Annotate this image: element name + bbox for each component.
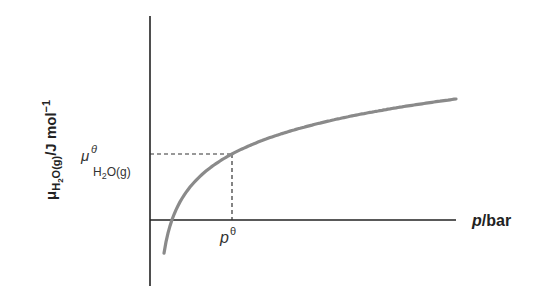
mu-theta-sub-rest: O(g) <box>107 165 131 179</box>
standard-pressure-label: p θ <box>219 225 236 246</box>
x-label-p: p <box>471 212 482 229</box>
y-label-unit: /J mol <box>42 112 59 155</box>
mu-theta-sup: θ <box>91 143 97 155</box>
chemical-potential-diagram: μH2O(g)/J mol−1 μ θ H2O(g) p θ p/bar <box>0 0 556 296</box>
x-axis-label: p/bar <box>471 212 511 229</box>
mu-theta-symbol: μ <box>80 147 89 164</box>
svg-text:μH2O(g)/J mol−1: μH2O(g)/J mol−1 <box>40 100 65 200</box>
y-label-sub-h: H <box>50 183 62 191</box>
y-label-sup: −1 <box>40 100 52 113</box>
chemical-potential-curve <box>164 99 456 253</box>
y-label-sub-rest: O(g) <box>50 155 62 178</box>
p-theta-sup: θ <box>230 225 236 237</box>
mu-theta-sub-h: H <box>93 165 102 179</box>
y-label-mu: μ <box>42 191 59 200</box>
y-axis-label: μH2O(g)/J mol−1 <box>40 100 65 200</box>
p-theta-symbol: p <box>219 229 229 246</box>
x-label-unit: /bar <box>482 212 511 229</box>
mu-theta-sub: H2O(g) <box>93 165 131 181</box>
standard-potential-label: μ θ H2O(g) <box>80 143 131 181</box>
